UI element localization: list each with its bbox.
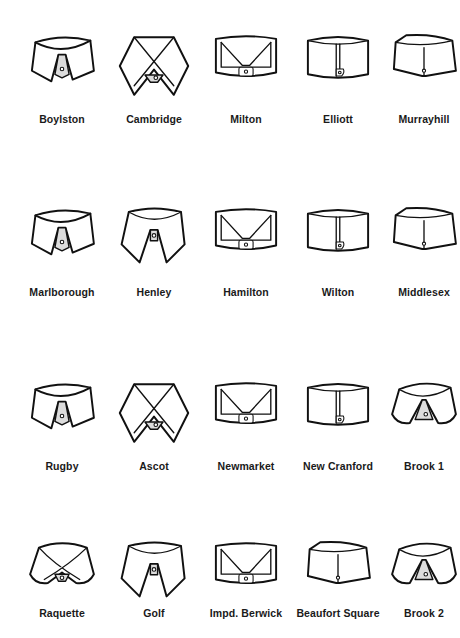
- collar-label: Middlesex: [378, 286, 460, 298]
- collar-label: Brook 2: [378, 607, 460, 619]
- band-tab-collar-icon: [302, 377, 374, 439]
- collar-label: Golf: [108, 607, 200, 619]
- collar-item: Impd. Berwick: [200, 537, 292, 599]
- band-fold-collar-icon: [210, 30, 282, 92]
- band-tab-collar-icon: [302, 30, 374, 92]
- collar-item: Raquette: [16, 537, 108, 599]
- collar-item: Rugby: [16, 377, 108, 439]
- collar-label: New Cranford: [292, 460, 384, 472]
- collar-item: Newmarket: [200, 377, 292, 439]
- spread-tab-collar-icon: [26, 203, 98, 265]
- collar-item: Boylston: [16, 30, 108, 92]
- collar-item: Beaufort Square: [292, 537, 384, 599]
- collar-label: Rugby: [16, 460, 108, 472]
- collar-item: Henley: [108, 203, 200, 275]
- collar-label: Ascot: [108, 460, 200, 472]
- round-club-collar-icon: [388, 377, 460, 439]
- band-plain-collar-icon: [388, 30, 460, 92]
- collar-item: Murrayhill: [378, 30, 460, 92]
- collar-label: Brook 1: [378, 460, 460, 472]
- collar-item: Elliott: [292, 30, 384, 92]
- point-button-collar-icon: [118, 203, 190, 275]
- collar-item: Hamilton: [200, 203, 292, 265]
- collar-label: Marlborough: [16, 286, 108, 298]
- collar-item: New Cranford: [292, 377, 384, 439]
- collar-item: Middlesex: [378, 203, 460, 265]
- collar-label: Murrayhill: [378, 113, 460, 125]
- collar-label: Newmarket: [200, 460, 292, 472]
- collar-label: Cambridge: [108, 113, 200, 125]
- collar-label: Impd. Berwick: [200, 607, 292, 619]
- collar-label: Raquette: [16, 607, 108, 619]
- band-fold-collar-icon: [210, 203, 282, 265]
- collar-label: Hamilton: [200, 286, 292, 298]
- point-button-collar-icon: [118, 537, 190, 609]
- collar-item: Brook 2: [378, 537, 460, 599]
- collar-item: Brook 1: [378, 377, 460, 439]
- collar-label: Elliott: [292, 113, 384, 125]
- wing-cross-collar-icon: [118, 30, 190, 102]
- band-fold-collar-icon: [210, 377, 282, 439]
- round-club-collar-icon: [388, 537, 460, 599]
- collar-item: Ascot: [108, 377, 200, 449]
- collar-label: Wilton: [292, 286, 384, 298]
- collar-item: Milton: [200, 30, 292, 92]
- collar-label: Milton: [200, 113, 292, 125]
- collar-label: Boylston: [16, 113, 108, 125]
- collar-item: Marlborough: [16, 203, 108, 265]
- band-plain-collar-icon: [388, 203, 460, 265]
- spread-tab-collar-icon: [26, 30, 98, 92]
- band-plain-collar-icon: [302, 537, 374, 599]
- wing-cross-collar-icon: [118, 377, 190, 449]
- spread-tab-collar-icon: [26, 377, 98, 439]
- band-tab-collar-icon: [302, 203, 374, 265]
- collar-item: Wilton: [292, 203, 384, 265]
- round-cross-collar-icon: [26, 537, 98, 599]
- collar-label: Henley: [108, 286, 200, 298]
- collar-label: Beaufort Square: [292, 607, 384, 619]
- band-fold-collar-icon: [210, 537, 282, 599]
- collar-item: Cambridge: [108, 30, 200, 102]
- collar-item: Golf: [108, 537, 200, 609]
